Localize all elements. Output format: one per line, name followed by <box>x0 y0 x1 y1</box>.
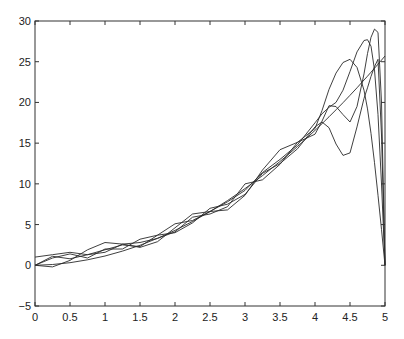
x-tick-label: 4 <box>312 311 318 323</box>
x-tick-label: 4.5 <box>342 311 357 323</box>
series-line-approx-2 <box>35 40 385 266</box>
y-tick-label: 30 <box>19 15 31 27</box>
y-tick-label: −5 <box>18 300 31 312</box>
x-tick-label: 3 <box>242 311 248 323</box>
y-tick-label: 0 <box>25 259 31 271</box>
ticks-layer <box>35 21 385 306</box>
x-tick-label: 1.5 <box>132 311 147 323</box>
x-tick-label: 0 <box>32 311 38 323</box>
series-line-approx-3 <box>35 29 385 265</box>
y-tick-label: 25 <box>19 56 31 68</box>
y-tick-label: 5 <box>25 219 31 231</box>
series-line-approx-4 <box>35 59 385 265</box>
x-axis-tick-labels: 00.511.522.533.544.55 <box>32 311 388 323</box>
line-chart: 00.511.522.533.544.55 −5051015202530 <box>0 0 404 339</box>
y-tick-label: 15 <box>19 137 31 149</box>
series-layer <box>35 29 385 267</box>
x-tick-label: 3.5 <box>272 311 287 323</box>
y-tick-label: 10 <box>19 178 31 190</box>
series-line-approx-1 <box>35 59 385 267</box>
x-tick-label: 0.5 <box>62 311 77 323</box>
series-line-target <box>35 56 385 265</box>
x-tick-label: 1 <box>102 311 108 323</box>
x-tick-label: 5 <box>382 311 388 323</box>
plot-frame <box>35 21 385 306</box>
y-axis-tick-labels: −5051015202530 <box>18 15 31 312</box>
x-tick-label: 2.5 <box>202 311 217 323</box>
x-tick-label: 2 <box>172 311 178 323</box>
y-tick-label: 20 <box>19 96 31 108</box>
